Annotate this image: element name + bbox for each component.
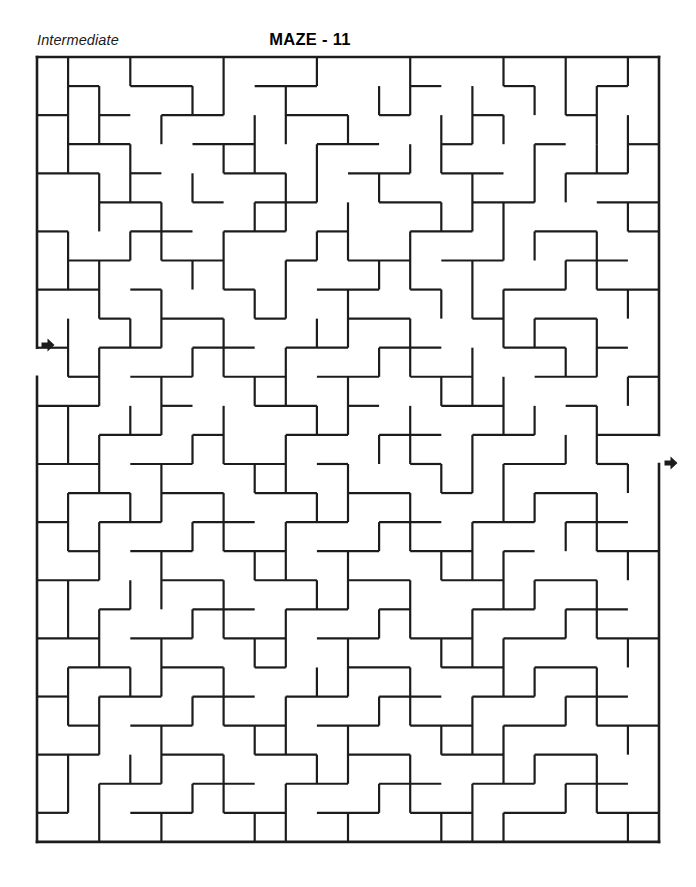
maze-wall-group: [37, 57, 659, 842]
maze-canvas: [0, 0, 696, 887]
entry-arrow: [42, 339, 55, 352]
exit-arrow: [665, 457, 678, 470]
maze-grid: [0, 0, 696, 887]
maze-marker-group: [42, 339, 678, 470]
maze-page: Intermediate MAZE - 11: [0, 0, 696, 887]
